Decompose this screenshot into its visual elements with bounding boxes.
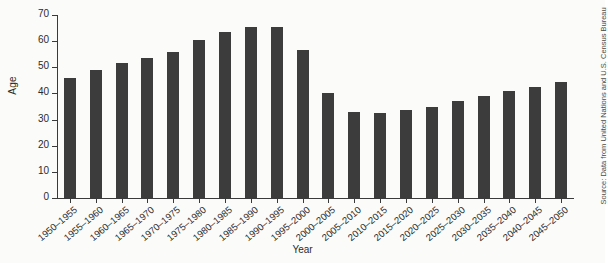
- bar: [141, 58, 153, 198]
- y-axis-tick: 40: [52, 93, 57, 94]
- x-axis-tick: [251, 199, 252, 203]
- bar: [374, 113, 386, 198]
- y-axis-tick: 0: [52, 198, 57, 199]
- source-note: Source: Data from United Nations and U.S…: [599, 25, 608, 205]
- y-axis-line: [57, 15, 58, 199]
- x-axis-tick: [303, 199, 304, 203]
- y-axis-tick: 20: [52, 146, 57, 147]
- y-axis-title: Age: [7, 56, 18, 116]
- x-axis-tick: [147, 199, 148, 203]
- bar: [555, 82, 567, 198]
- x-axis-tick: [199, 199, 200, 203]
- bar: [64, 78, 76, 198]
- x-axis-tick: [122, 199, 123, 203]
- x-axis-tick: [225, 199, 226, 203]
- x-axis-tick: [354, 199, 355, 203]
- x-axis-tick: [535, 199, 536, 203]
- bar: [116, 63, 128, 198]
- bar: [452, 101, 464, 198]
- bar: [348, 112, 360, 198]
- x-axis-tick: [406, 199, 407, 203]
- bar: [90, 70, 102, 198]
- y-axis-tick: 60: [52, 41, 57, 42]
- y-axis-tick: 10: [52, 172, 57, 173]
- bar: [193, 40, 205, 198]
- x-axis-tick: [96, 199, 97, 203]
- bar: [529, 87, 541, 198]
- y-axis-tick-label: 60: [38, 34, 49, 45]
- bar: [400, 110, 412, 198]
- y-axis-tick-label: 0: [43, 191, 49, 202]
- x-axis-tick: [509, 199, 510, 203]
- y-axis-tick: 70: [52, 15, 57, 16]
- bar: [245, 27, 257, 198]
- y-axis-tick: 50: [52, 67, 57, 68]
- bar: [322, 93, 334, 198]
- x-axis-tick: [70, 199, 71, 203]
- plot-area: 010203040506070: [57, 15, 574, 199]
- bar: [426, 107, 438, 199]
- y-axis-tick-label: 30: [38, 113, 49, 124]
- x-axis-tick: [484, 199, 485, 203]
- x-axis-tick: [328, 199, 329, 203]
- x-axis-tick: [380, 199, 381, 203]
- y-axis-tick-label: 40: [38, 86, 49, 97]
- y-axis-tick-label: 70: [38, 8, 49, 19]
- y-axis-tick-label: 10: [38, 165, 49, 176]
- y-axis-tick: 30: [52, 120, 57, 121]
- y-axis-tick-label: 50: [38, 60, 49, 71]
- x-axis-tick: [458, 199, 459, 203]
- bar: [219, 32, 231, 198]
- bar: [503, 91, 515, 198]
- bar: [478, 96, 490, 198]
- x-axis-tick: [432, 199, 433, 203]
- x-axis-tick: [277, 199, 278, 203]
- bar: [297, 50, 309, 198]
- y-axis-tick-label: 20: [38, 139, 49, 150]
- bar: [271, 27, 283, 198]
- bar: [167, 52, 179, 198]
- x-axis-line: [57, 198, 574, 199]
- x-axis-tick: [561, 199, 562, 203]
- x-axis-title: Year: [0, 244, 605, 255]
- x-axis-tick: [173, 199, 174, 203]
